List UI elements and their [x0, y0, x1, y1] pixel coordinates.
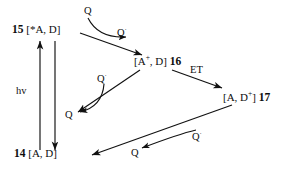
radical-dot-top: ·	[125, 26, 127, 34]
species-label-14: 14 [A, D]	[14, 148, 57, 160]
hv-label: hv	[16, 86, 27, 97]
quencher-label-top: Q	[84, 6, 92, 17]
species-number-14: 14	[14, 147, 26, 159]
arrow-s17-to-s14	[92, 105, 232, 155]
species-number-16: 16	[170, 55, 182, 67]
radical-dot-bottom: ·	[200, 130, 202, 138]
species-formula-17-core: [A, D+]	[223, 91, 256, 103]
quencher-label-bottom: Q	[131, 148, 139, 159]
quencher-radical-label-bottom: Q·	[192, 132, 202, 143]
radical-dot-middle: ·	[105, 72, 107, 80]
species-formula-16-core: [A+, D]	[134, 55, 167, 67]
species-formula-14: [A, D]	[28, 147, 57, 159]
species-label-16: [A+, D] 16	[134, 56, 181, 68]
species-formula-15: [*A, D]	[26, 23, 60, 35]
species-label-15: 15 [*A, D]	[12, 24, 60, 36]
quencher-label-middle: Q	[65, 110, 73, 121]
arrow-s16-to-s14	[78, 70, 140, 112]
species-label-17: [A, D+] 17	[223, 92, 270, 104]
et-label: ET	[190, 65, 203, 76]
reaction-scheme-diagram: 15 [*A, D] [A+, D] 16 [A, D+] 17 14 [A, …	[0, 0, 289, 172]
quencher-radical-label-middle: Q·	[97, 74, 107, 85]
quencher-radical-label-top: Q·	[117, 28, 127, 39]
arrow-quencher-bottom	[142, 130, 196, 148]
species-number-15: 15	[12, 23, 24, 35]
species-number-17: 17	[259, 91, 271, 103]
